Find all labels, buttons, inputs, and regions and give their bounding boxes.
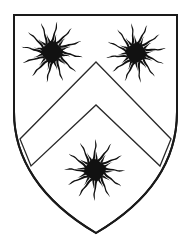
coat-of-arms-image: Coat of arms A heraldic shield bearing a… xyxy=(0,0,191,248)
coat-of-arms-drawing xyxy=(0,0,191,248)
